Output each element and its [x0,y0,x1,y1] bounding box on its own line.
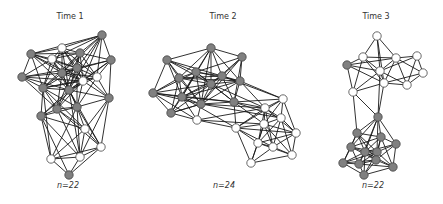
network-edge [407,56,417,85]
white-node [254,139,262,147]
gray-node [343,61,351,69]
white-node [279,95,287,103]
gray-node [339,159,347,167]
network-edge [31,53,80,54]
gray-node [389,163,397,171]
network-edge [363,57,396,58]
gray-node [355,160,363,168]
white-node [288,151,296,159]
white-node [413,52,421,60]
white-node [419,69,427,77]
network-panel-2 [149,44,300,167]
gray-node [373,148,381,156]
panel-title-time-2: Time 2 [209,12,236,21]
white-node [97,143,105,151]
gray-node [372,156,380,164]
gray-node [392,140,400,148]
gray-node [230,98,238,106]
white-node [392,54,400,62]
white-node [292,129,300,137]
gray-node [98,31,106,39]
panel-title-time-3: Time 3 [362,12,389,21]
white-node [193,116,201,124]
gray-node [347,143,355,151]
gray-node [236,77,244,85]
gray-node [76,49,84,57]
gray-node [374,113,382,121]
node-count-time-2: n=24 [213,181,235,190]
gray-node [218,72,226,80]
white-node [376,67,384,75]
white-node [79,77,87,85]
white-node [260,120,268,128]
white-node [403,81,411,89]
network-edge [85,98,109,129]
gray-node [361,148,369,156]
panel-title-time-1: Time 1 [56,12,83,21]
gray-node [65,86,73,94]
network-edge [211,48,242,57]
network-edge [153,60,167,93]
gray-node [178,93,186,101]
network-edge [41,116,51,159]
white-node [373,32,381,40]
white-node [232,124,240,132]
network-edge [384,73,423,83]
gray-node [360,171,368,179]
network-edge [109,60,111,98]
network-edge [240,81,283,99]
network-panel-1 [18,31,115,179]
white-node [349,88,357,96]
network-graphs [0,0,443,204]
white-node [247,159,255,167]
network-edge [353,57,363,92]
white-node [81,125,89,133]
gray-node [105,94,113,102]
white-node [269,143,277,151]
white-node [47,155,55,163]
network-edge [197,108,265,120]
gray-node [18,73,26,81]
white-node [359,53,367,61]
gray-node [73,64,81,72]
gray-node [238,53,246,61]
white-node [76,153,84,161]
network-edge [258,133,296,143]
gray-node [107,56,115,64]
white-node [48,55,56,63]
gray-node [167,109,175,117]
white-node [380,79,388,87]
gray-node [27,50,35,58]
gray-node [149,89,157,97]
gray-node [175,74,183,82]
gray-node [53,105,61,113]
network-edge [353,92,378,117]
white-node [277,114,285,122]
network-edge [347,65,380,71]
gray-node [353,129,361,137]
white-node [93,73,101,81]
gray-node [73,103,81,111]
gray-node [192,68,200,76]
gray-node [197,100,205,108]
node-count-time-3: n=22 [362,181,384,190]
network-panel-3 [339,32,427,179]
node-count-time-1: n=22 [57,181,79,190]
gray-node [207,44,215,52]
white-node [58,44,66,52]
gray-node [58,69,66,77]
network-edge [201,102,234,104]
gray-node [65,171,73,179]
gray-node [377,133,385,141]
network-edge [353,92,357,133]
network-edge [167,60,211,84]
white-node [261,104,269,112]
gray-node [207,80,215,88]
network-edge [57,109,80,157]
gray-node [37,112,45,120]
gray-node [163,56,171,64]
gray-node [39,84,47,92]
